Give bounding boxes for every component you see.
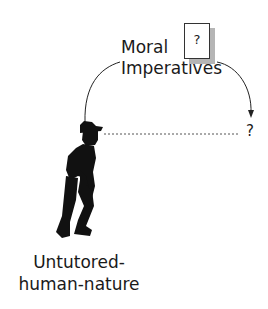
target-question-mark: ? [246, 122, 254, 140]
right-arc-arrow [217, 62, 251, 113]
imperatives-label: Imperatives [121, 59, 222, 78]
question-card: ? [184, 23, 210, 59]
moral-label: Moral [121, 38, 168, 57]
person-silhouette-icon [56, 121, 103, 238]
human-nature-label: human-nature [8, 275, 150, 294]
left-arc [85, 62, 120, 122]
untutored-label: Untutored- [24, 253, 134, 272]
arrowhead-icon [248, 110, 254, 118]
